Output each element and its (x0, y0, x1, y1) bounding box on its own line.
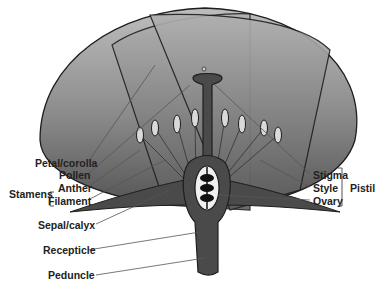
label-stigma: Stigma (313, 169, 348, 181)
label-filament: Filament (48, 195, 91, 207)
label-sepal: Sepal/calyx (38, 219, 95, 231)
flower-diagram (0, 0, 383, 283)
label-recepticle: Recepticle (43, 244, 96, 256)
label-petal: Petal/corolla (35, 157, 97, 169)
label-ovary: Ovary (313, 195, 343, 207)
label-style: Style (313, 182, 338, 194)
label-anther: Anther (58, 182, 92, 194)
label-pollen: Pollen (59, 169, 91, 181)
label-pistil: Pistil (350, 182, 375, 194)
label-peduncle: Peduncle (48, 269, 95, 281)
label-stamens: Stamens (9, 188, 53, 200)
